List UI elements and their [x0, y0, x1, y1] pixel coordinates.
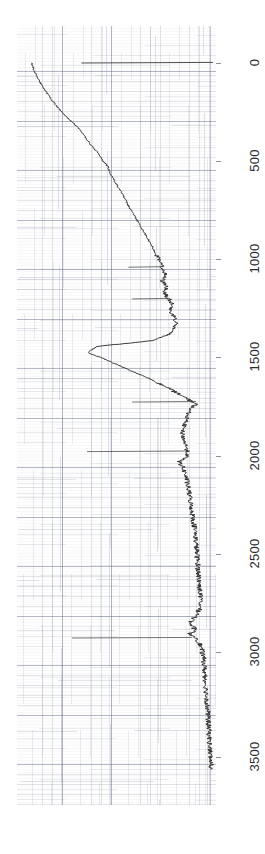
tick-label-3500: 3500 [247, 734, 262, 780]
tick-mark-3000 [216, 652, 221, 653]
tick-label-0: 0 [247, 40, 262, 86]
tick-mark-2000 [216, 456, 221, 457]
marker-line-1960 [87, 451, 185, 452]
plot-frame [17, 26, 216, 805]
tick-mark-3500 [216, 757, 221, 758]
marker-line-1710 [132, 401, 196, 402]
tick-mark-0 [216, 63, 221, 64]
tick-label-500: 500 [247, 138, 262, 184]
spectrum-trace-group [31, 63, 213, 769]
spectrum-plot [17, 26, 216, 805]
tick-label-2000: 2000 [247, 433, 262, 479]
tick-mark-1500 [216, 357, 221, 358]
spectrum-trace [31, 63, 213, 769]
baseline-line [81, 62, 213, 63]
marker-line-1030 [128, 267, 164, 268]
tick-label-1000: 1000 [247, 236, 262, 282]
tick-mark-2500 [216, 554, 221, 555]
wavenumber-axis: 0500100015002000250030003500 [216, 0, 265, 854]
tick-mark-1000 [216, 259, 221, 260]
spectrum-page: 0500100015002000250030003500 [0, 0, 265, 854]
tick-label-1500: 1500 [247, 334, 262, 380]
annotation-strokes [72, 62, 213, 638]
tick-label-2500: 2500 [247, 531, 262, 577]
marker-line-2900 [72, 637, 192, 638]
marker-line-1190 [132, 298, 170, 299]
tick-mark-500 [216, 161, 221, 162]
tick-label-3000: 3000 [247, 629, 262, 675]
